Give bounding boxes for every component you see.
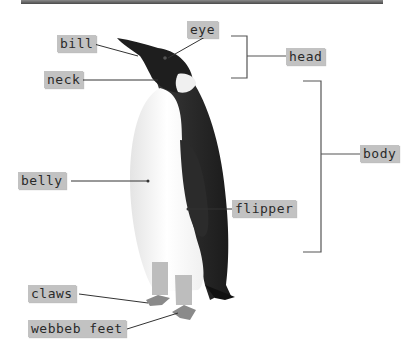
label-head: head [286,48,325,65]
label-neck: neck [44,71,83,88]
label-flipper: flipper [232,200,296,217]
label-body: body [360,145,399,162]
label-belly: belly [18,172,66,189]
label-webbed-feet: webbeb feet [28,320,126,337]
penguin-eye [163,56,167,60]
label-eye: eye [187,21,218,38]
label-bill: bill [57,35,96,52]
label-claws: claws [28,285,76,302]
brackets [231,36,360,252]
